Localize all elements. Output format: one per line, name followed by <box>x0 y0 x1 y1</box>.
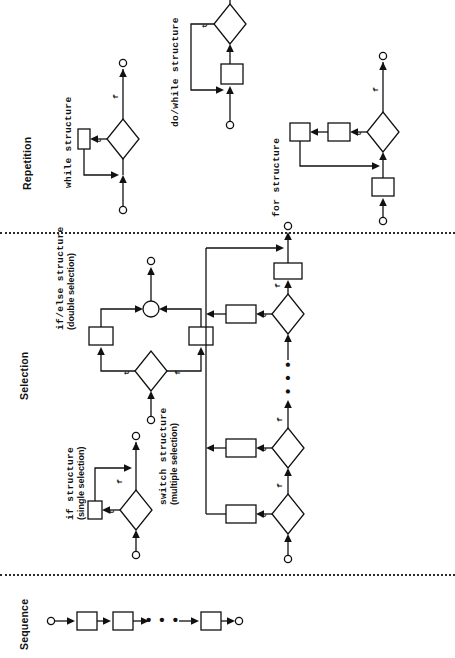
label-if-else-title: if/else structure <box>55 226 66 330</box>
diagram-while-structure: f t <box>76 55 148 215</box>
switch-case2-merge-arrowhead <box>206 444 214 452</box>
switch-caseN-false-label: f <box>273 283 282 288</box>
diagram-sequence: • • • <box>45 592 245 650</box>
switch-ellipsis-left-arrowhead <box>284 400 292 408</box>
switch-caseN-action-box <box>226 305 256 323</box>
dowhile-entry-connector <box>226 121 233 128</box>
while-false-label: f <box>111 94 120 99</box>
while-exit-connector <box>119 59 126 66</box>
label-if-else-subtitle: (double selection) <box>66 226 76 330</box>
while-entry-connector <box>119 206 126 213</box>
switch-caseN-entry-arrowhead <box>284 334 292 342</box>
if-action-box <box>88 501 102 519</box>
if-true-arrowhead <box>102 506 110 514</box>
label-if-structure: if structure (single selection) <box>65 446 86 520</box>
divider-selection-sequence <box>0 574 455 576</box>
sequence-action-box-1 <box>77 612 97 630</box>
section-label-sequence: Sequence <box>19 599 31 650</box>
switch-entry-arrowhead <box>284 534 292 542</box>
for-exit-connector <box>379 52 386 59</box>
for-entry-connector <box>379 217 386 224</box>
sequence-exit-arrowhead <box>227 617 235 625</box>
switch-default-arrowhead <box>284 280 292 288</box>
sequence-arrowhead-4 <box>191 617 199 625</box>
sequence-ellipsis: • • • <box>146 611 180 628</box>
sequence-arrowhead-1 <box>67 617 75 625</box>
switch-case2-action-box <box>226 439 256 457</box>
if-to-decision-arrowhead <box>132 530 140 538</box>
if-decision-diamond <box>120 490 152 530</box>
if-false-label: f <box>115 479 124 484</box>
ifelse-decision-diamond <box>135 351 167 391</box>
for-init-box <box>372 178 394 196</box>
switch-bus-exit-arrowhead <box>276 244 284 252</box>
for-increment-box <box>290 123 310 141</box>
switch-case1-diamond <box>272 494 304 534</box>
figure-canvas: Repetition Selection Sequence while stru… <box>0 0 455 658</box>
dowhile-to-decision-arrowhead <box>226 44 234 52</box>
switch-caseN-diamond <box>272 294 304 334</box>
for-loopback-arrowhead <box>372 162 380 170</box>
ifelse-exit-arrowhead <box>147 267 155 275</box>
for-false-label: f <box>371 87 380 92</box>
for-increment-arrowhead <box>310 128 318 136</box>
sequence-action-box-3 <box>201 612 221 630</box>
if-entry-connector <box>132 551 139 558</box>
for-decision-diamond <box>367 112 399 152</box>
while-exit-arrowhead <box>119 69 127 77</box>
label-do-while-structure: do/while structure <box>171 17 182 127</box>
section-label-selection: Selection <box>19 352 31 400</box>
dowhile-merge-arrowhead <box>226 86 234 94</box>
switch-case2-diamond <box>272 428 304 468</box>
label-for-structure: for structure <box>272 138 283 217</box>
switch-case1-false-label: f <box>275 483 284 488</box>
label-if-title: if structure <box>65 446 76 520</box>
sequence-action-box-2 <box>113 612 133 630</box>
while-decision-diamond <box>107 119 139 159</box>
switch-case1-action-box <box>226 505 256 523</box>
ifelse-true-action-box <box>89 327 113 345</box>
switch-case1-false-arrowhead <box>284 468 292 476</box>
switch-entry-connector <box>284 555 291 562</box>
switch-ellipsis: • • • <box>279 360 296 394</box>
diagram-switch-structure: t f t f • • • <box>184 264 334 564</box>
diagram-do-while-structure: f t <box>183 0 269 130</box>
sequence-exit-connector <box>235 617 242 624</box>
dowhile-decision-diamond <box>214 4 246 44</box>
for-to-decision-arrowhead <box>379 152 387 160</box>
for-exit-arrowhead <box>379 62 387 70</box>
dowhile-loopback-arrowhead <box>216 86 224 94</box>
ifelse-merge-top-arrowhead <box>135 305 143 313</box>
diagram-if-structure: t f <box>86 420 160 560</box>
while-merge-arrowhead <box>119 175 127 183</box>
for-init-arrowhead <box>379 198 387 206</box>
label-if-subtitle: (single selection) <box>76 446 86 520</box>
ifelse-true-arrowhead <box>97 347 105 355</box>
switch-case2-false-label: f <box>275 417 284 422</box>
switch-caseN-merge-arrowhead <box>206 310 214 318</box>
while-loopback-arrowhead <box>111 171 119 179</box>
sequence-arrowhead-2 <box>103 617 111 625</box>
label-if-else-structure: if/else structure (double selection) <box>55 226 76 330</box>
switch-default-action-box <box>274 263 302 279</box>
ifelse-to-decision-arrowhead <box>147 391 155 399</box>
if-merge-arrowhead <box>124 464 132 472</box>
for-body-box <box>328 123 350 141</box>
dowhile-action-box <box>221 64 243 84</box>
section-label-repetition: Repetition <box>22 137 34 190</box>
switch-exit-connector <box>284 222 291 229</box>
ifelse-exit-connector <box>147 257 154 264</box>
if-exit-connector <box>132 432 139 439</box>
ifelse-merge-circle <box>143 301 159 317</box>
sequence-entry-connector <box>47 617 54 624</box>
label-while-structure: while structure <box>64 96 75 188</box>
ifelse-merge-bottom-arrowhead <box>159 305 167 313</box>
diagram-for-structure: f t <box>288 48 408 226</box>
while-action-box <box>78 129 90 149</box>
if-exit-arrowhead <box>132 442 140 450</box>
